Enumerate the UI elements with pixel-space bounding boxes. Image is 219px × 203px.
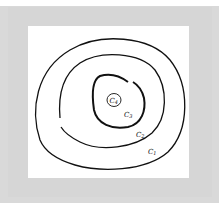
label-c4: C4 [110,97,119,105]
label-c2: C2 [136,131,145,139]
concentric-curves-diagram: C4 C3 C2 C1 [0,0,219,203]
label-c3: C3 [124,111,133,119]
curve-c3 [93,75,145,128]
label-c1: C1 [148,148,157,156]
